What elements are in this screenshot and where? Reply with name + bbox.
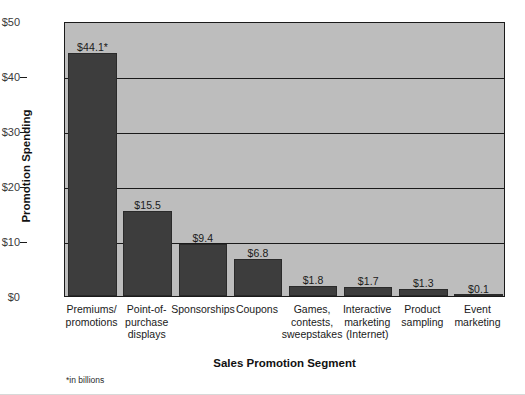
bar[interactable] xyxy=(234,259,283,296)
bar[interactable] xyxy=(399,289,448,296)
y-tick-label: $10 xyxy=(2,236,20,248)
x-category-line: (Internet) xyxy=(337,328,398,341)
bar[interactable] xyxy=(344,287,393,296)
bar-value-label: $1.3 xyxy=(399,277,448,289)
x-category-line: Point-of- xyxy=(116,303,177,316)
y-tick-label: $20 xyxy=(2,181,20,193)
x-category-line: displays xyxy=(116,328,177,341)
bar-value-label: $0.1 xyxy=(454,283,503,295)
y-axis: Promotion Spending $0$10$20$30$40$50 xyxy=(0,0,64,320)
x-category-label: Interactivemarketing(Internet) xyxy=(337,303,398,341)
x-category-line: purchase xyxy=(116,316,177,329)
plot-area: $44.1*$15.5$9.4$6.8$1.8$1.7$1.3$0.1 xyxy=(64,22,505,297)
x-category-line: Sponsorships xyxy=(171,303,232,316)
x-category-line: Interactive xyxy=(337,303,398,316)
x-category-line: marketing xyxy=(337,316,398,329)
bar-value-label: $9.4 xyxy=(179,232,228,244)
y-tick-label: $0 xyxy=(8,291,20,303)
x-category-label: Premiums/promotions xyxy=(61,303,122,328)
bar[interactable] xyxy=(123,211,172,296)
y-axis-title: Promotion Spending xyxy=(20,76,32,256)
bar-value-label: $44.1* xyxy=(68,41,117,53)
x-category-line: Event xyxy=(447,303,508,316)
bar-value-label: $15.5 xyxy=(123,199,172,211)
bars-group: $44.1*$15.5$9.4$6.8$1.8$1.7$1.3$0.1 xyxy=(65,23,504,296)
bar-value-label: $6.8 xyxy=(234,247,283,259)
x-axis-title: Sales Promotion Segment xyxy=(64,357,505,369)
x-category-label: Coupons xyxy=(226,303,287,316)
x-category-line: contests, xyxy=(282,316,343,329)
x-category-line: Premiums/ xyxy=(61,303,122,316)
x-category-line: sampling xyxy=(392,316,453,329)
x-category-label: Sponsorships xyxy=(171,303,232,316)
x-category-line: sweepstakes xyxy=(282,328,343,341)
y-tick-label: $40 xyxy=(2,71,20,83)
bar-value-label: $1.8 xyxy=(289,274,338,286)
x-category-line: promotions xyxy=(61,316,122,329)
x-category-label: Games,contests,sweepstakes xyxy=(282,303,343,341)
y-tick-label: $30 xyxy=(2,126,20,138)
bar-chart-figure: Promotion Spending $0$10$20$30$40$50 $44… xyxy=(0,0,525,395)
bar[interactable] xyxy=(68,53,117,296)
x-category-label: Productsampling xyxy=(392,303,453,328)
x-category-label: Point-of-purchasedisplays xyxy=(116,303,177,341)
x-category-label: Eventmarketing xyxy=(447,303,508,328)
y-tick-mark xyxy=(20,187,27,188)
y-tick-mark xyxy=(20,132,27,133)
x-category-line: Coupons xyxy=(226,303,287,316)
bar[interactable] xyxy=(289,286,338,296)
x-category-line: Product xyxy=(392,303,453,316)
bar[interactable] xyxy=(179,244,228,296)
x-category-line: marketing xyxy=(447,316,508,329)
y-tick-mark xyxy=(20,77,27,78)
y-tick-mark xyxy=(20,242,27,243)
x-category-line: Games, xyxy=(282,303,343,316)
y-tick-label: $50 xyxy=(2,16,20,28)
bar-value-label: $1.7 xyxy=(344,275,393,287)
footnote: *in billions xyxy=(66,375,104,385)
